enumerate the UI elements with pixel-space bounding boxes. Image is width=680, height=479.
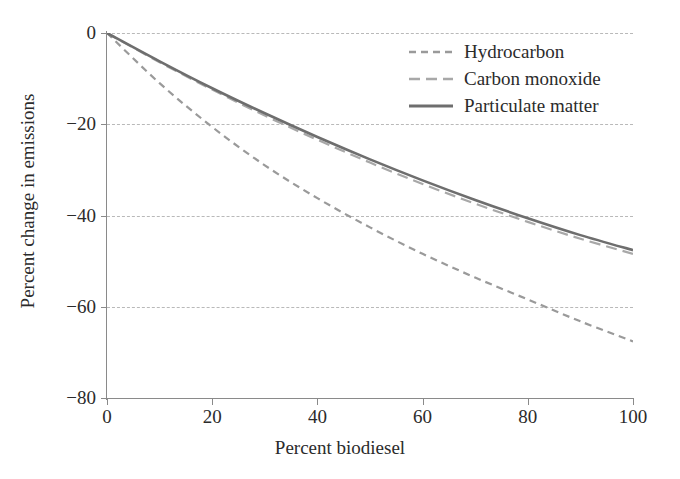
x-tick-label: 60 — [388, 407, 458, 426]
y-tick-label: −80 — [36, 388, 96, 407]
legend-item-carbon-monoxide[interactable]: Carbon monoxide — [408, 65, 660, 92]
y-tick-label: −20 — [36, 114, 96, 133]
x-axis-title: Percent biodiesel — [0, 437, 680, 459]
x-tick-label: 80 — [493, 407, 563, 426]
x-tick-label: 20 — [177, 407, 247, 426]
chart-legend: HydrocarbonCarbon monoxideParticulate ma… — [408, 38, 660, 119]
x-tick-label: 0 — [72, 407, 142, 426]
x-tick-mark — [528, 399, 529, 405]
chart-figure: 0−20−40−60−80 020406080100 Percent chang… — [0, 0, 680, 479]
y-tick-label: −40 — [36, 206, 96, 225]
legend-label: Particulate matter — [464, 96, 599, 115]
x-tick-mark — [633, 399, 634, 405]
legend-line-swatch — [408, 73, 454, 85]
legend-line-swatch — [408, 46, 454, 58]
x-tick-label: 100 — [598, 407, 668, 426]
y-tick-label: −60 — [36, 297, 96, 316]
legend-line-swatch — [408, 100, 454, 112]
legend-label: Carbon monoxide — [464, 69, 601, 88]
x-tick-mark — [423, 399, 424, 405]
x-tick-mark — [107, 399, 108, 405]
x-tick-label: 40 — [282, 407, 352, 426]
x-axis-spine — [106, 398, 634, 399]
x-tick-mark — [317, 399, 318, 405]
x-tick-mark — [212, 399, 213, 405]
legend-label: Hydrocarbon — [464, 42, 564, 61]
y-tick-label: 0 — [36, 23, 96, 42]
y-axis-title: Percent change in emissions — [17, 31, 39, 371]
legend-item-particulate-matter[interactable]: Particulate matter — [408, 92, 660, 119]
legend-item-hydrocarbon[interactable]: Hydrocarbon — [408, 38, 660, 65]
